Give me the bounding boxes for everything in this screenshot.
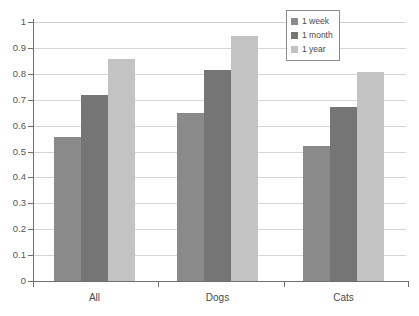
bar-dogs-1-year — [231, 36, 258, 281]
x-label-cats: Cats — [333, 292, 354, 303]
x-tick — [158, 281, 159, 287]
legend-swatch-icon — [291, 46, 298, 53]
legend-item-1-month: 1 month — [291, 29, 334, 42]
bar-chart: 10.90.80.70.60.50.40.30.20.10 AllDogsCat… — [0, 0, 419, 316]
x-tick — [284, 281, 285, 287]
bar-cats-1-month — [330, 107, 357, 281]
legend-item-1-week: 1 week — [291, 15, 334, 28]
bar-all-1-year — [108, 59, 135, 281]
x-tick — [33, 281, 34, 287]
bar-dogs-1-month — [204, 70, 231, 281]
bar-all-1-month — [81, 95, 108, 281]
x-label-all: All — [89, 292, 100, 303]
bar-cats-1-week — [303, 146, 330, 281]
x-label-dogs: Dogs — [206, 292, 229, 303]
bar-dogs-1-week — [177, 113, 204, 281]
bars-layer — [0, 22, 419, 281]
x-tick — [408, 281, 409, 287]
legend-label: 1 year — [302, 45, 326, 54]
bar-all-1-week — [54, 137, 81, 281]
x-axis-line — [30, 281, 409, 282]
legend-swatch-icon — [291, 18, 298, 25]
bar-cats-1-year — [357, 72, 384, 281]
legend-swatch-icon — [291, 32, 298, 39]
legend-label: 1 week — [302, 17, 329, 26]
legend-item-1-year: 1 year — [291, 43, 334, 56]
legend-label: 1 month — [302, 31, 333, 40]
chart-legend: 1 week1 month1 year — [286, 10, 340, 61]
